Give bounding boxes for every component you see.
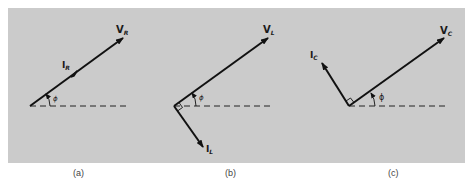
current-label-sub: L — [209, 148, 213, 155]
svg-text:VR: VR — [116, 24, 129, 36]
voltage-phasor-arrow — [349, 38, 444, 106]
svg-text:IC: IC — [310, 50, 318, 61]
voltage-label-sub: R — [124, 29, 129, 36]
svg-text:VC: VC — [440, 25, 453, 37]
phasor-panel-b: VL IL ϕ — [174, 24, 275, 155]
current-label-sub: R — [65, 64, 70, 71]
phasor-panel-a: VR IR ϕ — [30, 24, 129, 106]
phasor-panel-c: VC IC ϕ — [310, 25, 453, 106]
svg-text:IL: IL — [206, 144, 213, 155]
phase-angle-label: ϕ — [53, 95, 58, 103]
caption-a: (a) — [73, 168, 84, 178]
angle-arc — [46, 94, 50, 106]
current-label-sub: C — [313, 54, 318, 61]
voltage-label-sub: L — [271, 29, 275, 36]
angle-arc — [371, 93, 375, 106]
current-phasor-arrow — [174, 106, 203, 147]
phase-angle-label: ϕ — [199, 94, 204, 102]
angle-arc — [192, 93, 196, 106]
phasor-diagrams: VR IR ϕ VL IL ϕ VC IC ϕ — [0, 0, 473, 186]
phase-angle-label: ϕ — [379, 93, 384, 102]
current-direction-arrowhead — [71, 71, 77, 77]
caption-c: (c) — [388, 168, 399, 178]
current-phasor-arrow — [322, 63, 349, 106]
voltage-phasor-arrow — [174, 38, 268, 106]
voltage-label-sub: C — [448, 30, 453, 37]
caption-b: (b) — [225, 168, 236, 178]
svg-text:VL: VL — [263, 24, 275, 36]
svg-text:IR: IR — [62, 60, 70, 71]
